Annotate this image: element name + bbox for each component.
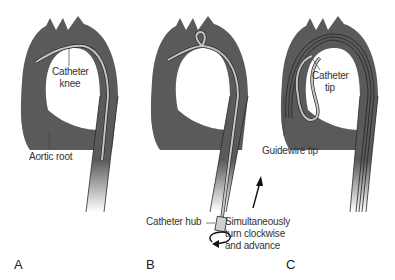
catheter-tip-label-line1: Catheter <box>312 70 348 82</box>
catheter-hub-label: Catheter hub <box>146 216 201 228</box>
aortic-root-label: Aortic root <box>29 151 72 163</box>
panel-a-aorta <box>21 16 118 212</box>
panel-letter-a: A <box>14 257 23 272</box>
panel-letter-c: C <box>286 257 295 272</box>
panel-letter-b: B <box>146 257 155 272</box>
instruction-label-line2: turn clockwise <box>225 228 290 240</box>
panel-b-aorta <box>151 16 263 248</box>
instruction-label: Simultaneously turn clockwise and advanc… <box>225 216 290 252</box>
catheter-tip-label-line2: tip <box>312 82 348 94</box>
instruction-label-line3: and advance <box>225 240 290 252</box>
catheter-tip-label: Catheter tip <box>312 70 348 94</box>
panel-c-aorta <box>281 16 378 212</box>
guidewire-tip-label: Guidewire tip <box>262 145 318 157</box>
instruction-label-line1: Simultaneously <box>225 216 290 228</box>
catheter-knee-label: Catheter knee <box>52 66 88 90</box>
catheter-knee-label-line1: Catheter <box>52 66 88 78</box>
up-arrow-icon <box>253 176 263 208</box>
catheter-knee-label-line2: knee <box>52 78 88 90</box>
aortic-catheter-diagram <box>0 0 395 280</box>
